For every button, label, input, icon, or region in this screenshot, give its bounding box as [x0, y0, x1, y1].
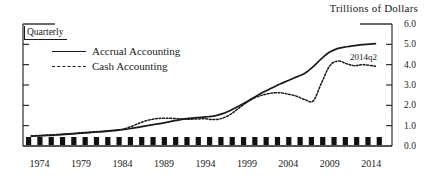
quarterly-label: Quarterly — [24, 26, 67, 40]
y-axis-tick-label: 3.0 — [404, 80, 430, 90]
y-axis-tick-label: 5.0 — [404, 39, 430, 49]
right-axis-ticks — [386, 44, 392, 125]
axes — [23, 24, 392, 146]
x-axis-tick-label: 1979 — [61, 158, 101, 169]
y-axis-tick-label: 1.0 — [404, 121, 430, 131]
bottom-tick-blocks — [26, 137, 382, 145]
legend-item-cash: Cash Accounting — [52, 59, 180, 74]
x-axis-tick-label: 2004 — [268, 158, 308, 169]
legend-item-accrual: Accrual Accounting — [52, 44, 180, 59]
legend-swatch-dashed-line-icon — [52, 62, 86, 72]
x-axis-tick-label: 1989 — [144, 158, 184, 169]
legend-label-accrual: Accrual Accounting — [92, 44, 180, 59]
y-axis-tick-label: 2.0 — [404, 100, 430, 110]
x-axis-tick-label: 1994 — [185, 158, 225, 169]
chart-legend: Accrual Accounting Cash Accounting — [52, 44, 180, 74]
legend-label-cash: Cash Accounting — [92, 59, 167, 74]
y-axis-tick-label: 6.0 — [404, 19, 430, 29]
annotation-2014q2: 2014q2 — [350, 52, 377, 62]
x-axis-tick-label: 1999 — [227, 158, 267, 169]
x-axis-tick-label: 2009 — [310, 158, 350, 169]
x-axis-tick-label: 2014 — [351, 158, 391, 169]
x-axis-tick-label: 1984 — [103, 158, 143, 169]
left-axis-ticks — [23, 44, 29, 125]
x-axis-tick-label: 1974 — [20, 158, 60, 169]
legend-swatch-solid-line-icon — [52, 47, 86, 57]
y-axis-tick-label: 0.0 — [404, 141, 430, 151]
y-axis-tick-label: 4.0 — [404, 60, 430, 70]
chart-figure: Trillions of Dollars Quarterly 2014q2 Ac… — [0, 0, 444, 184]
